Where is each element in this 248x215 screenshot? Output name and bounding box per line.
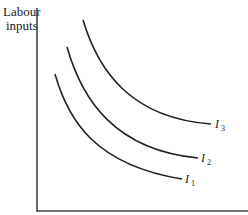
svg-text:I: I <box>214 117 220 131</box>
curve-label-i3: I 3 <box>214 117 225 133</box>
curve-label-i1: I 1 <box>184 172 195 188</box>
curve-i1 <box>55 74 182 179</box>
diagram-canvas: I 1 I 2 I 3 <box>0 0 248 215</box>
svg-text:I: I <box>200 151 206 165</box>
svg-text:2: 2 <box>207 158 211 167</box>
curve-i3 <box>83 20 211 124</box>
svg-text:I: I <box>184 172 190 186</box>
curve-i2 <box>67 47 198 158</box>
curve-label-i2: I 2 <box>200 151 211 167</box>
svg-text:1: 1 <box>191 179 195 188</box>
svg-text:3: 3 <box>221 124 225 133</box>
isoquant-diagram: Labour inputs I 1 I 2 I 3 <box>0 0 248 215</box>
